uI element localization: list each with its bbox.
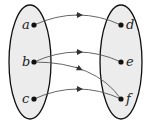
dot-f [118, 96, 123, 101]
diagram-canvas: a b c d e f [0, 0, 151, 123]
label-d: d [126, 17, 134, 32]
dot-b [31, 59, 36, 64]
dot-d [118, 22, 123, 27]
label-e: e [126, 54, 134, 69]
label-c: c [22, 91, 30, 106]
label-b: b [22, 54, 30, 69]
dot-a [31, 22, 36, 27]
dot-e [118, 59, 123, 64]
mapping-diagram: a b c d e f [0, 0, 151, 123]
dot-c [31, 96, 36, 101]
label-a: a [22, 17, 30, 32]
